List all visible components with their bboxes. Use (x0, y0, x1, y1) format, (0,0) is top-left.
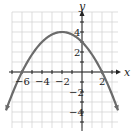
y-tick-label: 2 (74, 47, 80, 58)
x-tick-label: −6 (15, 76, 30, 87)
y-tick-label: −4 (69, 107, 84, 118)
axes (9, 10, 121, 131)
parabola-graph: y x −6 −4 −2 2 4 2 −2 −4 (0, 0, 132, 133)
y-tick-label: 4 (74, 27, 80, 38)
y-tick-label: −2 (69, 87, 84, 98)
y-axis-label: y (78, 0, 86, 13)
x-tick-label: −2 (55, 76, 70, 87)
x-tick-label: −4 (35, 76, 50, 87)
x-tick-label: 2 (99, 76, 105, 87)
x-axis-arrow-icon (116, 70, 121, 75)
x-axis-label: x (124, 66, 131, 79)
